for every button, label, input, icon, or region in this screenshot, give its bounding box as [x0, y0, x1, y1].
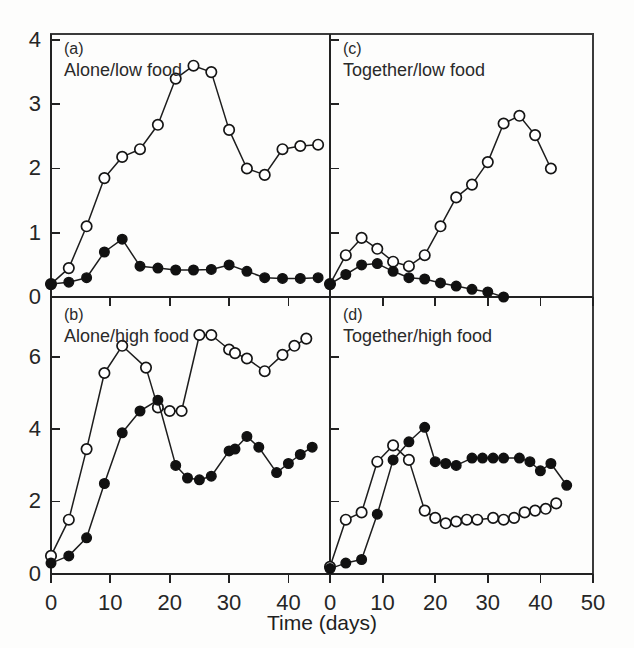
data-point-a-open-circle-12: [260, 170, 270, 180]
data-point-a-open-circle-4: [117, 152, 127, 162]
data-point-a-open-circle-5: [135, 144, 145, 154]
data-point-b-filled-circle-13: [242, 432, 252, 442]
data-point-d-open-circle-1: [341, 515, 351, 525]
x-tick-label-b-30: 30: [217, 590, 241, 615]
data-point-a-open-circle-10: [224, 125, 234, 135]
data-point-d-open-circle-4: [388, 440, 398, 450]
data-point-c-filled-circle-8: [451, 281, 461, 291]
y-tick-label-b-2: 2: [29, 488, 41, 513]
data-point-d-filled-circle-0: [325, 564, 335, 574]
data-point-a-filled-circle-0: [46, 279, 56, 289]
data-point-d-filled-circle-7: [430, 457, 440, 467]
outer-frame: [51, 34, 593, 574]
data-point-c-open-circle-8: [451, 192, 461, 202]
data-point-b-open-circle-12: [230, 348, 240, 358]
data-point-d-open-circle-11: [472, 515, 482, 525]
data-point-a-filled-circle-3: [100, 247, 110, 257]
data-point-d-filled-circle-16: [536, 466, 546, 476]
data-point-b-open-circle-14: [260, 366, 270, 376]
data-point-d-filled-circle-11: [478, 453, 488, 463]
y-tick-label-a-3: 3: [29, 91, 41, 116]
y-tick-label-a-0: 0: [29, 284, 41, 309]
data-point-a-filled-circle-8: [189, 265, 199, 275]
figure-container: 01234024601020304001020304050 (a)Alone/l…: [0, 0, 634, 648]
data-point-a-filled-circle-14: [296, 274, 306, 284]
data-point-c-open-circle-14: [546, 163, 556, 173]
data-point-b-filled-circle-2: [82, 533, 92, 543]
data-point-d-open-circle-2: [356, 507, 366, 517]
data-point-d-open-circle-9: [451, 516, 461, 526]
data-point-b-open-circle-5: [141, 362, 151, 372]
data-point-b-filled-circle-6: [153, 395, 163, 405]
series-line-c-filled-circle: [330, 264, 504, 297]
series-line-c-open-circle: [330, 116, 551, 284]
x-tick-label-d-30: 30: [476, 590, 500, 615]
data-point-d-open-circle-18: [551, 498, 561, 508]
data-point-d-filled-circle-4: [388, 455, 398, 465]
data-point-a-open-circle-13: [277, 144, 287, 154]
data-point-c-open-circle-2: [356, 233, 366, 243]
data-point-b-filled-circle-5: [135, 406, 145, 416]
data-point-c-filled-circle-5: [404, 273, 414, 283]
data-point-c-filled-circle-2: [357, 260, 367, 270]
data-point-d-filled-circle-10: [467, 453, 477, 463]
data-point-a-open-circle-14: [295, 141, 305, 151]
data-point-c-open-circle-9: [467, 179, 477, 189]
y-tick-label-b-4: 4: [29, 416, 41, 441]
data-point-a-filled-circle-7: [171, 265, 181, 275]
data-point-d-filled-circle-1: [341, 558, 351, 568]
data-point-a-open-circle-6: [153, 120, 163, 130]
data-point-d-open-circle-17: [541, 504, 551, 514]
data-point-c-filled-circle-0: [325, 279, 335, 289]
data-point-d-filled-circle-8: [441, 459, 451, 469]
y-tick-label-a-2: 2: [29, 155, 41, 180]
data-point-d-open-circle-16: [530, 505, 540, 515]
data-point-b-open-circle-2: [81, 444, 91, 454]
data-point-a-open-circle-3: [99, 173, 109, 183]
data-point-a-open-circle-15: [313, 140, 323, 150]
panel-caption-c: Together/low food: [343, 60, 485, 80]
data-point-d-open-circle-7: [430, 513, 440, 523]
data-point-c-open-circle-7: [435, 221, 445, 231]
data-point-d-open-circle-12: [488, 513, 498, 523]
data-point-b-filled-circle-17: [296, 450, 306, 460]
data-point-c-filled-circle-11: [499, 292, 509, 302]
y-tick-label-a-4: 4: [29, 27, 41, 52]
data-series-layer: [46, 60, 572, 573]
data-point-a-filled-circle-6: [153, 263, 163, 273]
data-point-a-filled-circle-11: [242, 267, 252, 277]
panel-caption-d: Together/high food: [343, 326, 492, 346]
data-point-d-filled-circle-3: [373, 509, 383, 519]
data-point-b-open-circle-17: [301, 333, 311, 343]
y-tick-label-b-0: 0: [29, 561, 41, 586]
data-point-a-filled-circle-2: [82, 273, 92, 283]
data-point-b-filled-circle-15: [272, 468, 282, 478]
panel-frames: [51, 34, 593, 574]
data-point-d-filled-circle-5: [404, 437, 414, 447]
data-point-c-open-circle-10: [483, 157, 493, 167]
panel-caption-a: Alone/low food: [64, 60, 182, 80]
data-point-a-open-circle-8: [188, 60, 198, 70]
series-line-a-open-circle: [51, 66, 318, 284]
data-point-c-filled-circle-7: [436, 278, 446, 288]
data-point-a-open-circle-11: [242, 163, 252, 173]
y-tick-label-a-1: 1: [29, 220, 41, 245]
data-point-b-filled-circle-4: [117, 428, 127, 438]
data-point-a-open-circle-1: [64, 263, 74, 273]
data-point-b-filled-circle-14: [254, 442, 264, 452]
data-point-d-open-circle-15: [519, 507, 529, 517]
data-point-a-filled-circle-10: [224, 260, 234, 270]
data-point-c-open-circle-11: [498, 118, 508, 128]
data-point-a-filled-circle-15: [313, 273, 323, 283]
data-point-b-filled-circle-3: [100, 479, 110, 489]
data-point-b-open-circle-13: [242, 353, 252, 363]
data-point-a-filled-circle-9: [207, 265, 217, 275]
data-point-d-open-circle-13: [498, 515, 508, 525]
panel-tag-d: (d): [343, 306, 363, 323]
data-point-b-filled-circle-1: [64, 551, 74, 561]
data-point-b-filled-circle-10: [207, 471, 217, 481]
x-tick-label-d-50: 50: [581, 590, 605, 615]
x-tick-label-d-40: 40: [528, 590, 552, 615]
data-point-b-filled-circle-0: [46, 558, 56, 568]
data-point-d-filled-circle-15: [525, 457, 535, 467]
